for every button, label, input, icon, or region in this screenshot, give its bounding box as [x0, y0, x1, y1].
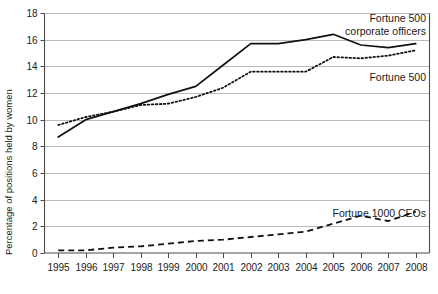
annot-ceos: Fortune 1000 CEOs: [333, 207, 426, 219]
y-tick-label: 4: [32, 195, 38, 206]
x-tick-label: 1996: [75, 262, 98, 273]
series-line-fortune-500-corporate-officers: [58, 34, 416, 137]
y-tick-label: 2: [32, 221, 38, 232]
y-tick-label: 16: [26, 35, 38, 46]
x-tick-label: 2001: [212, 262, 235, 273]
annot-corporate-officers: Fortune 500 corporate officers: [345, 12, 426, 37]
x-tick-label: 2004: [295, 262, 318, 273]
x-tick-label: 2006: [350, 262, 373, 273]
x-tick-label: 1998: [130, 262, 153, 273]
x-axis-tick-labels: 1995199619971998199920002001200220032004…: [47, 262, 428, 273]
annot-ceos-line1: Fortune 1000 CEOs: [333, 207, 426, 219]
y-tick-label: 6: [32, 168, 38, 179]
x-tick-label: 2000: [185, 262, 208, 273]
series-line-fortune-500-board-members: [58, 50, 416, 125]
y-axis-title: Percentage of positions held by women: [3, 89, 14, 255]
line-chart: Percentage of positions held by women 02…: [0, 0, 438, 294]
gridlines: [45, 41, 430, 227]
x-tick-label: 2005: [322, 262, 345, 273]
x-tick-label: 2007: [377, 262, 400, 273]
y-tick-label: 10: [26, 115, 38, 126]
x-tick-label: 1995: [47, 262, 70, 273]
x-axis-tick-marks: [59, 253, 417, 258]
y-tick-label: 14: [26, 61, 38, 72]
x-tick-label: 2003: [267, 262, 290, 273]
annot-board-members-line1: Fortune 500: [369, 71, 426, 83]
annot-corporate-officers-line2: corporate officers: [345, 25, 426, 37]
y-tick-label: 18: [26, 8, 38, 19]
y-tick-label: 0: [32, 248, 38, 259]
x-tick-label: 1997: [102, 262, 125, 273]
annot-board-members: Fortune 500: [369, 71, 426, 83]
y-axis-tick-labels: 024681012141618: [26, 8, 38, 259]
y-tick-label: 12: [26, 88, 38, 99]
y-axis-tick-marks: [41, 14, 45, 254]
x-tick-label: 2002: [240, 262, 263, 273]
x-tick-label: 2008: [405, 262, 428, 273]
annot-corporate-officers-line1: Fortune 500: [369, 12, 426, 24]
chart-container: Percentage of positions held by women 02…: [0, 0, 438, 294]
x-tick-label: 1999: [157, 262, 180, 273]
y-tick-label: 8: [32, 141, 38, 152]
